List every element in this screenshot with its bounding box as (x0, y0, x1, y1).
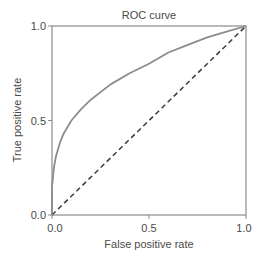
y-ticks: 1.0 0.5 0.0 (31, 20, 52, 221)
roc-chart: ROC curve 1.0 0.5 0.0 0.0 0.5 1.0 False … (0, 0, 263, 260)
y-axis-label: True positive rate (11, 78, 23, 163)
y-tick-label: 0.0 (31, 209, 46, 221)
x-ticks: 0.0 0.5 1.0 (47, 215, 251, 234)
x-tick-label: 1.0 (236, 222, 251, 234)
x-tick-label: 0.0 (47, 222, 62, 234)
x-axis-label: False positive rate (104, 238, 193, 250)
x-tick-label: 0.5 (141, 222, 156, 234)
chart-title: ROC curve (122, 9, 176, 21)
y-tick-label: 0.5 (31, 115, 46, 127)
y-tick-label: 1.0 (31, 20, 46, 32)
chance-diagonal-line (52, 26, 246, 215)
